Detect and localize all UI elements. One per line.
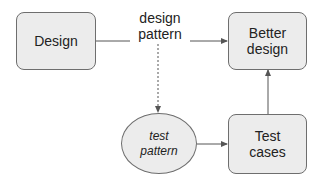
- node-test-pattern: test pattern: [121, 113, 197, 174]
- node-test-cases: Test cases: [228, 114, 307, 174]
- node-test-pattern-label: test pattern: [140, 129, 177, 159]
- node-better-design-label: Better design: [247, 25, 288, 57]
- node-design: Design: [16, 12, 96, 70]
- node-test-cases-label: Test cases: [249, 128, 286, 160]
- edge-label-design-pattern: design pattern: [130, 10, 190, 42]
- node-design-label: Design: [34, 33, 78, 49]
- diagram-canvas: Design Better design design pattern test…: [0, 0, 325, 183]
- node-better-design: Better design: [228, 12, 307, 70]
